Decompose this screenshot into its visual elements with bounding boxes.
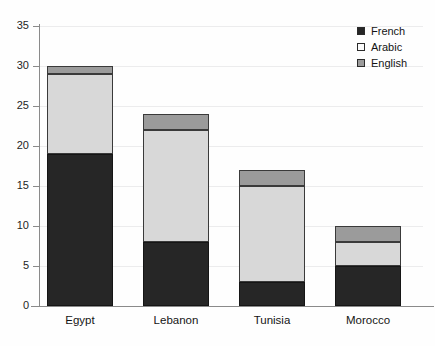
y-tick-label: 35 [7, 20, 29, 31]
bar-tunisia[interactable] [239, 26, 305, 306]
legend-item-arabic[interactable]: Arabic [357, 40, 435, 54]
x-tick-label-egypt: Egypt [25, 314, 135, 327]
bar-segment-lebanon-english[interactable] [143, 114, 209, 130]
bar-segment-lebanon-french[interactable] [143, 242, 209, 306]
y-tick-label: 20 [7, 140, 29, 151]
x-tick-label-lebanon: Lebanon [121, 314, 231, 327]
stacked-bar-chart: 05101520253035 EgyptLebanonTunisiaMorocc… [0, 0, 435, 346]
bar-segment-egypt-arabic[interactable] [47, 74, 113, 154]
scan-artifact-strip [0, 0, 435, 12]
legend-item-english[interactable]: English [357, 56, 435, 70]
legend-label-french: French [371, 26, 405, 37]
bar-segment-morocco-french[interactable] [335, 266, 401, 306]
y-tick-label: 10 [7, 220, 29, 231]
bar-segment-egypt-english[interactable] [47, 66, 113, 74]
bar-lebanon[interactable] [143, 26, 209, 306]
bar-segment-lebanon-arabic[interactable] [143, 130, 209, 242]
y-tick-label: 5 [7, 260, 29, 271]
bar-segment-tunisia-english[interactable] [239, 170, 305, 186]
legend-swatch-arabic-icon [357, 43, 365, 51]
legend-swatch-english-icon [357, 59, 365, 67]
chart-legend: French Arabic English [357, 24, 435, 72]
bar-egypt[interactable] [47, 26, 113, 306]
y-tick-label: 25 [7, 100, 29, 111]
bar-segment-tunisia-french[interactable] [239, 282, 305, 306]
bar-segment-morocco-english[interactable] [335, 226, 401, 242]
legend-label-arabic: Arabic [371, 42, 402, 53]
bar-segment-morocco-arabic[interactable] [335, 242, 401, 266]
y-tick-label: 15 [7, 180, 29, 191]
bar-segment-tunisia-arabic[interactable] [239, 186, 305, 282]
x-axis-line [31, 306, 434, 307]
legend-swatch-french-icon [357, 27, 365, 35]
legend-label-english: English [371, 58, 407, 69]
x-tick-label-morocco: Morocco [313, 314, 423, 327]
y-tick-label: 30 [7, 60, 29, 71]
x-tick-label-tunisia: Tunisia [217, 314, 327, 327]
y-tick-label: 0 [7, 300, 29, 311]
bar-segment-egypt-french[interactable] [47, 154, 113, 306]
legend-item-french[interactable]: French [357, 24, 435, 38]
